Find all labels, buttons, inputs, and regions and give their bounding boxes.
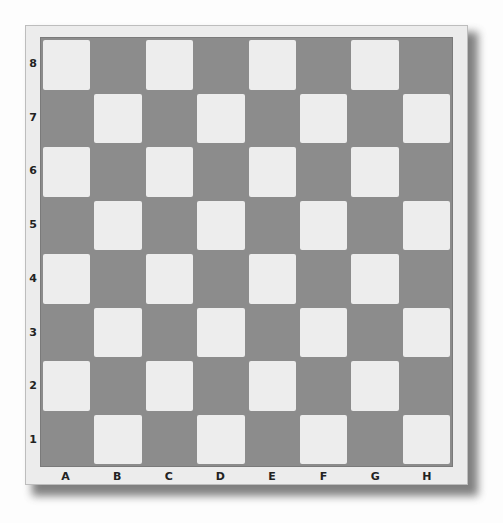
rank-label: 1 — [27, 433, 39, 446]
file-label: G — [350, 470, 401, 483]
file-label: B — [92, 470, 143, 483]
square-a1[interactable] — [41, 413, 92, 467]
square-a6[interactable] — [41, 145, 92, 199]
square-h7[interactable] — [401, 92, 452, 146]
square-h4[interactable] — [401, 252, 452, 306]
square-g1[interactable] — [349, 413, 400, 467]
square-a8[interactable] — [41, 38, 92, 92]
square-b4[interactable] — [92, 252, 143, 306]
square-c1[interactable] — [144, 413, 195, 467]
rank-label: 8 — [27, 57, 39, 70]
square-d5[interactable] — [195, 199, 246, 253]
square-c4[interactable] — [144, 252, 195, 306]
rank-label: 6 — [27, 164, 39, 177]
square-h6[interactable] — [401, 145, 452, 199]
square-h2[interactable] — [401, 359, 452, 413]
rank-label: 4 — [27, 272, 39, 285]
file-label: E — [247, 470, 298, 483]
square-c2[interactable] — [144, 359, 195, 413]
square-c6[interactable] — [144, 145, 195, 199]
square-d1[interactable] — [195, 413, 246, 467]
file-label: H — [401, 470, 452, 483]
square-d7[interactable] — [195, 92, 246, 146]
file-label: F — [298, 470, 349, 483]
square-e4[interactable] — [247, 252, 298, 306]
rank-label: 2 — [27, 379, 39, 392]
square-b1[interactable] — [92, 413, 143, 467]
square-h5[interactable] — [401, 199, 452, 253]
square-g8[interactable] — [349, 38, 400, 92]
square-f1[interactable] — [298, 413, 349, 467]
square-d8[interactable] — [195, 38, 246, 92]
square-e2[interactable] — [247, 359, 298, 413]
square-f4[interactable] — [298, 252, 349, 306]
square-a3[interactable] — [41, 306, 92, 360]
square-f7[interactable] — [298, 92, 349, 146]
square-d6[interactable] — [195, 145, 246, 199]
rank-label: 3 — [27, 326, 39, 339]
file-label: A — [40, 470, 91, 483]
square-h8[interactable] — [401, 38, 452, 92]
square-c8[interactable] — [144, 38, 195, 92]
square-a4[interactable] — [41, 252, 92, 306]
square-b7[interactable] — [92, 92, 143, 146]
square-c5[interactable] — [144, 199, 195, 253]
square-b8[interactable] — [92, 38, 143, 92]
square-b3[interactable] — [92, 306, 143, 360]
square-f6[interactable] — [298, 145, 349, 199]
file-label: C — [143, 470, 194, 483]
square-g3[interactable] — [349, 306, 400, 360]
rank-label: 5 — [27, 218, 39, 231]
square-h1[interactable] — [401, 413, 452, 467]
square-e6[interactable] — [247, 145, 298, 199]
square-f3[interactable] — [298, 306, 349, 360]
square-a5[interactable] — [41, 199, 92, 253]
square-g7[interactable] — [349, 92, 400, 146]
square-g5[interactable] — [349, 199, 400, 253]
rank-label: 7 — [27, 111, 39, 124]
square-a2[interactable] — [41, 359, 92, 413]
square-d2[interactable] — [195, 359, 246, 413]
square-b2[interactable] — [92, 359, 143, 413]
square-c3[interactable] — [144, 306, 195, 360]
square-g2[interactable] — [349, 359, 400, 413]
square-d3[interactable] — [195, 306, 246, 360]
square-c7[interactable] — [144, 92, 195, 146]
square-e8[interactable] — [247, 38, 298, 92]
square-f5[interactable] — [298, 199, 349, 253]
square-b5[interactable] — [92, 199, 143, 253]
square-e1[interactable] — [247, 413, 298, 467]
square-e5[interactable] — [247, 199, 298, 253]
square-g6[interactable] — [349, 145, 400, 199]
square-f8[interactable] — [298, 38, 349, 92]
square-a7[interactable] — [41, 92, 92, 146]
square-f2[interactable] — [298, 359, 349, 413]
square-d4[interactable] — [195, 252, 246, 306]
square-e3[interactable] — [247, 306, 298, 360]
square-g4[interactable] — [349, 252, 400, 306]
square-b6[interactable] — [92, 145, 143, 199]
square-h3[interactable] — [401, 306, 452, 360]
square-e7[interactable] — [247, 92, 298, 146]
chess-board[interactable] — [40, 37, 453, 467]
file-label: D — [195, 470, 246, 483]
